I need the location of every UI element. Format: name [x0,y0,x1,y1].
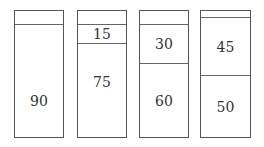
column-1-empty-segment [15,11,63,24]
column-1: 90 [14,10,64,138]
column-2-value-15: 15 [93,26,111,42]
column-3-value-60: 60 [155,93,173,109]
column-3-value-30: 30 [155,36,173,52]
column-2-value-75: 75 [93,74,111,90]
column-4-segment-50: 50 [201,75,250,137]
column-2-empty-segment [78,11,126,24]
column-2-segment-15: 15 [78,24,126,43]
column-1-value-90: 90 [30,93,48,109]
column-4: 45 50 [200,10,251,138]
column-3-segment-60: 60 [140,63,188,137]
column-4-value-45: 45 [217,39,235,55]
column-3: 30 60 [139,10,189,138]
column-2-segment-75: 75 [78,43,126,137]
column-3-segment-30: 30 [140,24,188,63]
column-4-segment-45: 45 [201,17,250,75]
column-4-value-50: 50 [217,99,235,115]
column-3-empty-segment [140,11,188,24]
column-2: 15 75 [77,10,127,138]
column-1-segment-90: 90 [15,24,63,137]
